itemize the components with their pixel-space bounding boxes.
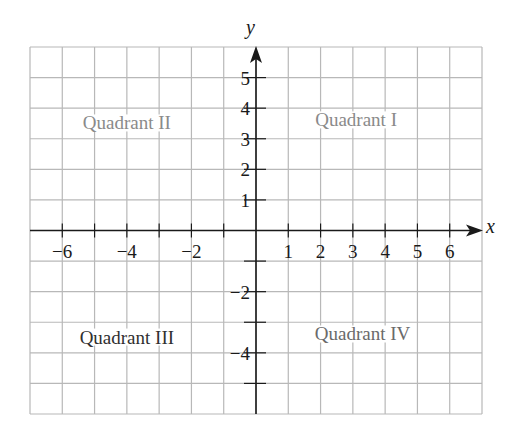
y-tick-label: −2 bbox=[230, 282, 250, 303]
quadrant-label: Quadrant IV bbox=[312, 323, 414, 344]
y-tick-label: 1 bbox=[241, 190, 251, 211]
quadrant-label: Quadrant II bbox=[80, 112, 174, 133]
y-tick-label: 4 bbox=[241, 98, 251, 119]
quadrant-label-text: Quadrant II bbox=[83, 112, 171, 133]
x-tick-label: 2 bbox=[316, 241, 326, 262]
axes bbox=[30, 46, 483, 414]
y-axis-label: y bbox=[244, 16, 255, 39]
x-tick-label: −4 bbox=[117, 241, 138, 262]
quadrant-label-text: Quadrant I bbox=[315, 109, 397, 130]
x-tick-label: 5 bbox=[413, 241, 423, 262]
x-tick-label: 6 bbox=[445, 241, 455, 262]
y-tick-label: 2 bbox=[241, 159, 251, 180]
x-tick-label: −2 bbox=[181, 241, 201, 262]
quadrant-label: Quadrant I bbox=[312, 109, 400, 130]
y-tick-label: −4 bbox=[230, 343, 251, 364]
y-tick-label: 3 bbox=[241, 129, 251, 150]
x-axis-label: x bbox=[485, 215, 495, 237]
quadrant-label-text: Quadrant IV bbox=[315, 323, 411, 344]
x-tick-label: 3 bbox=[348, 241, 358, 262]
x-tick-label: 1 bbox=[284, 241, 294, 262]
coordinate-plane: Quadrant IQuadrant IIQuadrant IIIQuadran… bbox=[0, 0, 521, 443]
x-tick-label: 4 bbox=[380, 241, 390, 262]
quadrant-label: Quadrant III bbox=[77, 327, 177, 348]
quadrant-label-text: Quadrant III bbox=[80, 327, 174, 348]
x-tick-label: −6 bbox=[52, 241, 72, 262]
y-tick-label: 5 bbox=[241, 68, 251, 89]
